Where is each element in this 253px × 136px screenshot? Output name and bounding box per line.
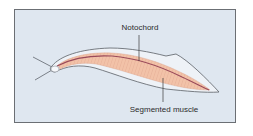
notochord-label: Notochord <box>122 23 159 32</box>
head-tip <box>51 66 59 72</box>
lancelet-illustration <box>0 0 253 136</box>
segmented-muscle-label: Segmented muscle <box>130 105 198 114</box>
oral-cirri <box>33 57 52 80</box>
